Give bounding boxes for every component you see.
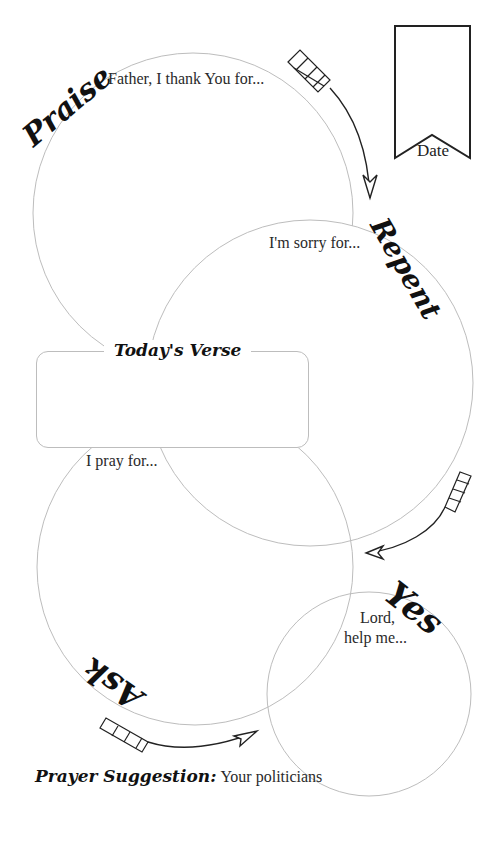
verse-box[interactable] [36,351,309,448]
arrow-icon [288,50,377,198]
arrow-icon [100,718,257,752]
prayer-suggestion-value: Your politicians [220,768,322,785]
prayer-suggestion-label: Prayer Suggestion: [35,766,216,786]
prayer-suggestion: Prayer Suggestion: Your politicians [35,766,322,786]
bookmark-icon [395,26,470,158]
repent-prompt[interactable]: I'm sorry for... [269,234,360,252]
verse-title: Today's Verse [104,340,251,360]
praise-prompt[interactable]: Father, I thank You for... [108,70,264,88]
date-label: Date [417,141,449,161]
yes-prompt-line1[interactable]: Lord, [360,609,395,627]
ask-prompt[interactable]: I pray for... [86,452,158,470]
yes-prompt-line2[interactable]: help me... [344,629,407,647]
